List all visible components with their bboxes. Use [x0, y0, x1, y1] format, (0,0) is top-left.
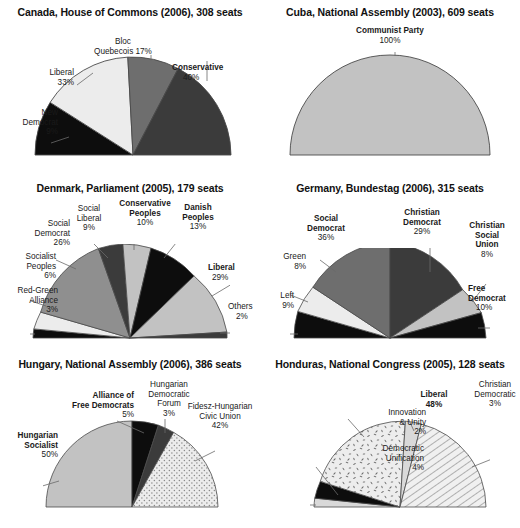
leader-national [472, 459, 490, 467]
chart-panel-hungary: Hungary, National Assembly (2006), 386 s… [0, 352, 260, 528]
label-germany-free-democrat-pct: 10% [476, 303, 492, 313]
chart-title-hungary: Hungary, National Assembly (2006), 386 s… [0, 358, 260, 370]
label-cuba-communist: Communist Party [332, 26, 448, 36]
semicircle-germany [290, 248, 490, 346]
label-canada-liberal: Liberal 33% [14, 68, 74, 87]
label-hungary-alliance: Alliance of Free Democrats [26, 391, 134, 410]
semicircle-cuba [287, 52, 493, 164]
label-germany-christian-social-union: Christian Social Union [456, 221, 518, 250]
leader-liberal [212, 284, 230, 296]
label-hungary-socialist: Hungarian Socialist [0, 431, 58, 450]
label-canada-new-democrat: New Democrat 9% [0, 108, 58, 137]
half-pie-chart-sheet: Canada, House of Commons (2006), 308 sea… [0, 0, 520, 528]
label-denmark-conservative-peoples-pct: 10% [112, 218, 178, 228]
chart-panel-germany: Germany, Bundestag (2006), 315 seats [260, 176, 520, 352]
label-denmark-danish-peoples: Danish Peoples [172, 203, 224, 222]
label-denmark-red-green-alliance: Red-Green Alliance 3% [0, 286, 58, 315]
chart-title-cuba: Cuba, National Assembly (2003), 609 seat… [260, 6, 520, 18]
chart-title-denmark: Denmark, Parliament (2005), 179 seats [0, 182, 260, 194]
label-denmark-social-democrat: Social Democrat 26% [2, 219, 70, 248]
chart-panel-cuba: Cuba, National Assembly (2003), 609 seat… [260, 0, 520, 176]
label-honduras-democratic-unification: Democratic Unification 4% [356, 444, 424, 473]
label-denmark-others-pct: 2% [236, 312, 248, 322]
label-canada-bloc: Bloc Quebecois 17% [78, 37, 168, 56]
slice-hungarian-socialist[interactable] [46, 421, 132, 507]
chart-title-honduras: Honduras, National Congress (2005), 128 … [260, 358, 520, 370]
label-hungary-alliance-pct: 5% [26, 410, 134, 420]
label-hungary-fidesz: Fidesz-Hungarian Civic Union 42% [180, 402, 260, 431]
semicircle-denmark [30, 244, 230, 346]
label-denmark-liberal: Liberal [208, 263, 235, 273]
label-germany-christian-democrat-pct: 29% [384, 227, 460, 237]
label-germany-green: Green 8% [260, 252, 306, 271]
chart-title-germany: Germany, Bundestag (2006), 315 seats [260, 182, 520, 194]
label-germany-social-democrat-pct: 36% [288, 233, 364, 243]
label-denmark-danish-peoples-pct: 13% [172, 222, 224, 232]
semicircle-hungary [43, 419, 221, 515]
label-germany-left: Left 9% [260, 291, 294, 310]
chart-title-canada: Canada, House of Commons (2006), 308 sea… [0, 6, 260, 18]
label-germany-christian-democrat: Christian Democrat [384, 208, 460, 227]
label-denmark-conservative-peoples: Conservative Peoples [112, 199, 178, 218]
label-denmark-others: Others [228, 302, 253, 312]
label-honduras-christian-democratic: Christian Democratic 3% [460, 380, 520, 409]
label-honduras-liberal: Liberal 48% [406, 390, 462, 409]
label-denmark-liberal-pct: 29% [212, 273, 228, 283]
label-canada-conservative: Conservative [172, 63, 223, 73]
chart-panel-honduras: Honduras, National Congress (2005), 128 … [260, 352, 520, 528]
label-germany-free-democrat: Free Democrat [468, 284, 506, 303]
label-honduras-innovation-unity: Innovation & Unity 2% [364, 408, 426, 437]
label-cuba-communist-pct: 100% [332, 36, 448, 46]
label-germany-social-democrat: Social Democrat [288, 214, 364, 233]
label-denmark-socialist-peoples: Socialist Peoples 6% [0, 252, 56, 281]
slice-communist-party[interactable] [290, 55, 490, 155]
chart-panel-canada: Canada, House of Commons (2006), 308 sea… [0, 0, 260, 176]
label-germany-christian-social-union-pct: 8% [456, 250, 518, 260]
label-canada-conservative-pct: 40% [183, 73, 199, 83]
label-denmark-social-liberal: Social Liberal 9% [62, 204, 116, 233]
label-hungary-socialist-pct: 50% [0, 450, 58, 460]
chart-panel-denmark: Denmark, Parliament (2005), 179 seats [0, 176, 260, 352]
